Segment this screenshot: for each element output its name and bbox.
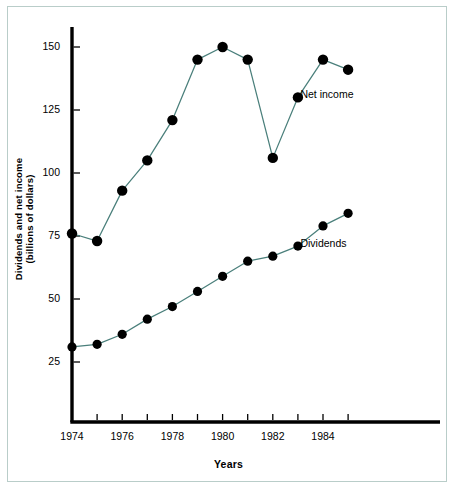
x-axis-ticks (97, 414, 348, 420)
x-tick-label-1984: 1984 (303, 430, 343, 442)
series-net-income (67, 42, 354, 246)
x-tick-label-1978: 1978 (152, 430, 192, 442)
y-tick-label-100: 100 (30, 166, 60, 178)
data-point (218, 272, 227, 281)
data-point (268, 252, 277, 261)
x-tick-label-1980: 1980 (203, 430, 243, 442)
data-point (117, 185, 127, 195)
data-point (318, 54, 328, 64)
series-dividends (67, 209, 352, 352)
x-tick-label-1982: 1982 (253, 430, 293, 442)
y-axis-ticks (74, 47, 81, 362)
data-point (143, 315, 152, 324)
data-point (193, 287, 202, 296)
data-point (92, 236, 102, 246)
data-point (118, 330, 127, 339)
data-point (67, 342, 76, 351)
x-tick-label-1976: 1976 (102, 430, 142, 442)
x-axis-title: Years (0, 458, 457, 470)
data-point (168, 302, 177, 311)
y-tick-label-125: 125 (30, 103, 60, 115)
data-point (344, 209, 353, 218)
y-axis-title-wrapper: Dividends and net income (billions of do… (12, 130, 36, 310)
series-label-dividends: Dividends (300, 237, 346, 249)
y-tick-label-50: 50 (30, 292, 60, 304)
data-point (93, 340, 102, 349)
y-tick-label-75: 75 (30, 229, 60, 241)
series-label-net-income: Net income (300, 88, 353, 100)
data-point (192, 54, 202, 64)
chart-figure: Dividends and net income (billions of do… (0, 0, 457, 494)
x-tick-label-1974: 1974 (52, 430, 92, 442)
data-point (268, 153, 278, 163)
line-chart-plot (0, 0, 457, 494)
data-point (217, 42, 227, 52)
data-point (243, 257, 252, 266)
data-point (243, 54, 253, 64)
data-point (67, 228, 77, 238)
data-point (343, 64, 353, 74)
y-axis-title: Dividends and net income (billions of do… (13, 129, 35, 309)
y-tick-label-150: 150 (30, 40, 60, 52)
data-point (167, 115, 177, 125)
data-point (142, 155, 152, 165)
data-point (318, 221, 327, 230)
y-tick-label-25: 25 (30, 355, 60, 367)
